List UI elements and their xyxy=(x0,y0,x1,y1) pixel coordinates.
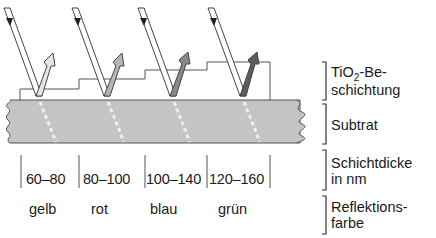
color-name-2: rot xyxy=(91,201,108,217)
color-name-4: grün xyxy=(218,201,247,217)
thickness-value-1: 60–80 xyxy=(26,171,65,187)
thickness-value-4: 120–160 xyxy=(209,171,264,187)
thickness-label-line2: in nm xyxy=(331,171,366,187)
incoming-arrowheads xyxy=(6,18,217,26)
legend-reflection: Reflektions- farbe xyxy=(331,199,408,231)
reflection-label-line1: Reflektions- xyxy=(331,199,408,215)
legend-thickness: Schichtdicke in nm xyxy=(331,155,412,187)
coating-label-suffix: -Be- xyxy=(359,64,386,80)
color-name-1: gelb xyxy=(29,201,56,217)
reflected-arrow-4 xyxy=(240,52,259,96)
thickness-value-3: 100–140 xyxy=(146,171,201,187)
thickness-value-2: 80–100 xyxy=(83,171,130,187)
light-beams xyxy=(4,8,259,96)
reflected-arrow-1 xyxy=(36,53,55,96)
reflection-label-line2: farbe xyxy=(331,215,364,231)
reflected-arrow-2 xyxy=(104,53,124,96)
coating-label-prefix: TiO xyxy=(331,64,354,80)
coating-label-subscript: 2 xyxy=(354,72,360,83)
reflected-arrow-3 xyxy=(170,52,190,96)
substrate-layer xyxy=(6,100,300,143)
coating-label-line2: schichtung xyxy=(331,82,400,98)
color-name-3: blau xyxy=(150,201,177,217)
legend-substrate: Subtrat xyxy=(331,117,378,133)
legend-coating: TiO2-Be- schichtung xyxy=(331,64,400,98)
thickness-label-line1: Schichtdicke xyxy=(331,155,412,171)
legend-brackets xyxy=(322,62,326,234)
